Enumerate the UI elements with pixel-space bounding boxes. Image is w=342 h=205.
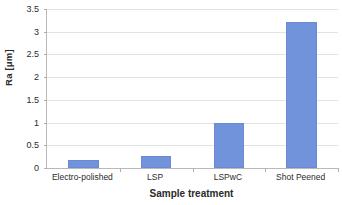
y-axis-tick-label: 0 (1, 163, 39, 173)
y-axis-tick-label: 1 (1, 118, 39, 128)
x-axis-tick-labels: Electro-polishedLSPLSPwCShot Peened (46, 172, 337, 186)
y-axis-tick-label: 3 (1, 27, 39, 37)
x-axis-tick-mark (338, 168, 339, 172)
plot-area (46, 9, 338, 169)
y-axis-tick-label: 0.5 (1, 140, 39, 150)
bar (214, 123, 245, 168)
bar (286, 22, 317, 168)
x-axis-tick-label: LSP (147, 172, 163, 182)
y-axis-tick-label: 2.5 (1, 49, 39, 59)
y-axis-tick-mark (44, 168, 47, 169)
y-axis-tick-label: 3.5 (1, 4, 39, 14)
x-axis-tick-label: Shot Peened (276, 172, 325, 182)
x-axis-tick-label: Electro-polished (52, 172, 113, 182)
bar (141, 156, 172, 168)
y-axis-tick-labels: 00.511.522.533.5 (0, 0, 42, 205)
x-axis-tick-label: LSPwC (214, 172, 242, 182)
bars-layer (47, 9, 338, 168)
bar-chart-figure: Ra [μm] 00.511.522.533.5 Electro-polishe… (0, 0, 342, 205)
bar (68, 160, 99, 168)
y-axis-tick-label: 2 (1, 72, 39, 82)
x-axis-title: Sample treatment (46, 188, 337, 199)
y-axis-tick-label: 1.5 (1, 95, 39, 105)
